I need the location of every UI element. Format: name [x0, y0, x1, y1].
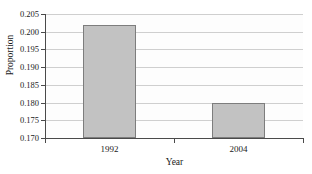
bar-2004 [212, 103, 265, 138]
y-tick-label: 0.175 [20, 116, 39, 125]
x-tick-mark [303, 139, 304, 143]
x-tick-mark [174, 139, 175, 143]
y-tick-label: 0.180 [20, 98, 39, 107]
y-tick-label: 0.185 [20, 81, 39, 90]
y-axis-line [45, 14, 46, 139]
y-tick-label: 0.195 [20, 45, 39, 54]
y-tick-label: 0.170 [20, 134, 39, 143]
y-tick-label: 0.205 [20, 10, 39, 19]
bar-chart-figure: Proportion 0.2050.2000.1950.1900.1850.18… [0, 0, 312, 174]
x-tick-label: 1992 [101, 144, 119, 154]
y-tick-label: 0.190 [20, 63, 39, 72]
x-axis-title: Year [45, 157, 304, 167]
bar-1992 [83, 25, 136, 138]
x-tick-mark [45, 139, 46, 143]
plot-area: 0.2050.2000.1950.1900.1850.1800.1750.170 [45, 14, 303, 138]
y-tick-label: 0.200 [20, 27, 39, 36]
chart-title [0, 0, 312, 3]
x-tick-label: 2004 [230, 144, 248, 154]
y-axis-title: Proportion [5, 20, 15, 90]
gridline [45, 14, 303, 15]
